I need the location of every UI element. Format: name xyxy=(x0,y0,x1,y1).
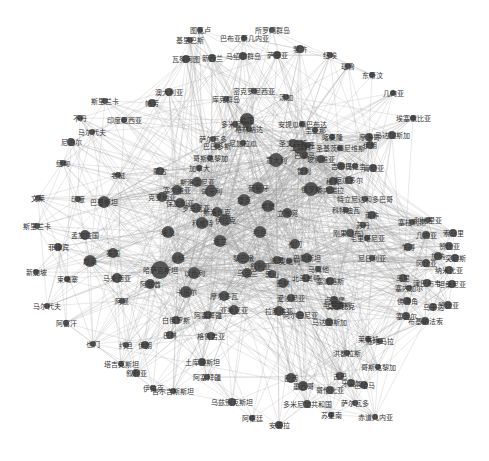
graph-node-label: 圣基茨和尼维斯 xyxy=(316,144,365,153)
graph-node-label: 埃及 xyxy=(161,228,175,237)
graph-node-label: 突尼斯 xyxy=(445,254,466,263)
graph-node-label: 斯里兰卡 xyxy=(23,222,51,231)
graph-node-label: 墨西哥 xyxy=(293,383,314,391)
graph-node-label: 多米尼加共和国 xyxy=(283,400,332,409)
graph-edge xyxy=(122,301,126,345)
graph-node-label: 马尔代夫 xyxy=(33,302,61,311)
graph-node-label: 伊拉克 xyxy=(143,384,164,393)
graph-node-label: 黎巴嫩 xyxy=(233,254,254,263)
graph-node-label: 文莱 xyxy=(31,194,45,203)
graph-node-label: 巴基斯坦 xyxy=(90,198,118,207)
graph-node-label: 特立尼达和多巴哥 xyxy=(337,195,393,204)
graph-node-label: 科特迪瓦 xyxy=(332,206,360,215)
graph-node-label: 伊朗 xyxy=(138,341,152,350)
graph-node-label: 坦桑尼亚 xyxy=(438,280,466,289)
graph-node-label: 尼日利亚 xyxy=(358,254,386,263)
graph-node-label: 斯里兰卡 xyxy=(91,97,119,106)
graph-node-label: 卡塔尔 xyxy=(176,288,197,297)
graph-node-label: 苏里南 xyxy=(321,411,342,420)
graph-node-label: 老挝 xyxy=(111,171,125,180)
graph-node-label: 几内亚 xyxy=(383,89,404,98)
graph-node-label: 克罗地亚 xyxy=(148,193,176,202)
graph-node-label: 土库曼斯坦 xyxy=(185,358,220,367)
graph-node-label: 斐济 xyxy=(293,45,307,54)
graph-node-label: 黑山 xyxy=(265,270,279,279)
graph-node-label: 印度 xyxy=(71,195,85,204)
graph-node-label: 索马里 xyxy=(443,229,464,238)
graph-node-label: 马里 xyxy=(396,275,410,283)
graph-node-label: 格林纳达 xyxy=(235,125,263,134)
graph-node-label: 巴林 xyxy=(276,279,290,288)
graph-node-label: 不丹 xyxy=(73,115,87,123)
graph-node-label: 东帝汶 xyxy=(362,71,383,80)
graph-node-label: 塞舌尔 xyxy=(396,312,417,321)
graph-edge xyxy=(126,284,150,345)
graph-node-label: 纽埃 xyxy=(323,51,337,60)
graph-node-label: 阿富汗 xyxy=(56,319,77,328)
graph-node-label: 萨尔瓦多 xyxy=(341,399,369,408)
graph-edge xyxy=(207,376,340,377)
graph-node-label: 孟加拉国 xyxy=(71,231,99,240)
graph-node-label: 希腊 xyxy=(261,202,275,211)
graph-node-label: 阿曼 xyxy=(115,297,129,306)
graph-edge xyxy=(375,367,378,417)
graph-node-label: 厄瓜多尔 xyxy=(335,176,363,185)
graph-node-label: 洪都拉斯 xyxy=(333,349,361,358)
graph-node-label: 奥地利 xyxy=(279,257,300,266)
graph-node-label: 约旦 xyxy=(253,228,267,237)
network-graph: 图瓦卢所罗门群岛巴布亚新几内亚基里巴斯马绍尔群岛瓦努阿图斐济萨摩亚新西兰澳大利亚… xyxy=(0,0,489,461)
graph-node-label: 毛里塔尼亚 xyxy=(350,234,385,243)
graph-node-label: 阿塞拜疆 xyxy=(194,311,222,320)
graph-node-label: 南非 xyxy=(365,211,379,220)
graph-node-label: 立陶宛 xyxy=(277,209,298,218)
graph-node-label: 澳大利亚 xyxy=(155,88,183,97)
graph-node-label: 匈牙利 xyxy=(201,187,222,196)
graph-node-label: 佛得角 xyxy=(397,297,418,306)
graph-edge xyxy=(66,279,67,323)
graph-node-label: 韩国 xyxy=(240,116,254,125)
graph-node-label: 埃塞俄比亚 xyxy=(396,114,431,123)
graph-node-label: 尼加拉瓜 xyxy=(229,139,257,148)
graph-node-label: 塔吉克斯坦 xyxy=(104,360,139,369)
graph-node-label: 伊朗 xyxy=(363,141,377,150)
graph-node-label: 约旦 xyxy=(119,341,133,350)
graph-node-label: 哥斯达黎加 xyxy=(361,363,396,372)
graph-node-label: 加纳 xyxy=(431,252,445,261)
graph-node-label: 伊拉克 xyxy=(215,216,236,225)
graph-node-label: 菲律宾 xyxy=(48,243,69,252)
graph-node-label: 马达加斯加 xyxy=(375,131,410,140)
graph-node-label: 瓦努阿图 xyxy=(172,55,200,64)
graph-node-label: 玻利维亚 xyxy=(307,155,335,164)
graph-node-label: 乌克兰 xyxy=(237,269,258,278)
graph-node-label: 尼泊尔 xyxy=(61,138,82,147)
graph-node-label: 泰国 xyxy=(106,249,120,258)
graph-node-label: 摩洛哥 xyxy=(359,133,380,142)
graph-node-label: 瑙鲁 xyxy=(341,62,355,71)
graph-node-label: 马达加斯加 xyxy=(312,318,347,327)
graph-node-label: 越南 xyxy=(83,257,97,266)
graph-node-label: 乍得 xyxy=(401,243,415,252)
graph-node-label: 印度尼西亚 xyxy=(107,116,142,125)
graph-node-label: 智利 xyxy=(297,167,311,176)
graph-node-label: 巴哈马 xyxy=(354,381,375,390)
graph-node-label: 也门 xyxy=(288,240,302,249)
graph-node-label: 毛里求斯 xyxy=(323,301,351,310)
graph-node-label: 乌干达 xyxy=(423,303,444,312)
graph-node-label: 乌兹别克斯坦 xyxy=(211,398,253,407)
graph-node-label: 喀麦隆 xyxy=(322,133,343,142)
graph-node-label: 基里巴斯 xyxy=(176,36,204,45)
graph-node-label: 马耳他 xyxy=(308,265,329,274)
graph-node-label: 马绍尔群岛 xyxy=(226,52,261,61)
graph-node-label: 哈萨克斯坦 xyxy=(143,266,178,275)
graph-node-label: 图瓦卢 xyxy=(190,26,211,35)
graph-node-label: 塞浦路斯 xyxy=(316,277,344,286)
graph-node-label: 捷克 xyxy=(237,196,251,205)
graph-node-label: 新西兰 xyxy=(202,54,223,63)
graph-edge xyxy=(38,198,47,306)
graph-node-label: 马尔代夫 xyxy=(78,128,106,137)
graph-node-label: 莱索托 xyxy=(358,335,379,344)
graph-node-label: 缅甸 xyxy=(56,159,70,168)
graph-node-label: 哥斯达黎加 xyxy=(193,154,228,163)
graph-node-label: 汤加 xyxy=(279,93,293,102)
graph-node-label: 格鲁吉亚 xyxy=(197,332,225,341)
